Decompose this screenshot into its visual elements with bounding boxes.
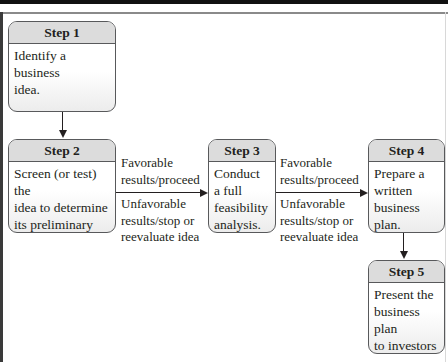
step-3-line: Conduct [214,165,270,182]
unfavorable-line: results/stop or [280,213,358,230]
arrow-down-icon [59,130,67,138]
frame-left-border [0,12,3,362]
step-2-title: Step 2 [9,140,115,162]
top-black-bar [0,0,448,4]
transition-1-unfavorable: Unfavorable results/stop or reevaluate i… [121,196,199,246]
step-2-line: idea to determine [14,199,110,216]
step-2-line: its preliminary [14,216,110,233]
step-3-line: analysis. [214,216,270,233]
step-1-title: Step 1 [9,22,115,44]
connector-step2-step3 [116,192,200,193]
arrow-down-icon [400,251,408,259]
transition-2-unfavorable: Unfavorable results/stop or reevaluate i… [280,196,358,246]
arrow-right-icon [360,189,368,197]
step-4-line: plan. [374,216,439,233]
favorable-line: results/proceed [280,172,359,189]
step-4-box: Step 4 Prepare a written business plan. [368,139,445,233]
step-1-line: idea. [14,81,110,98]
step-1-line: Identify a business [14,47,110,81]
step-3-description: Conduct a full feasibility analysis. [209,162,275,233]
unfavorable-line: Unfavorable [280,196,358,213]
unfavorable-line: reevaluate idea [121,229,199,246]
step-4-title: Step 4 [369,140,444,162]
step-3-line: a full [214,182,270,199]
arrow-right-icon [200,189,208,197]
connector-step1-step2 [62,112,63,131]
step-5-box: Step 5 Present the business plan to inve… [368,260,445,354]
step-1-description: Identify a business idea. [9,44,115,98]
favorable-line: Favorable [280,155,359,172]
unfavorable-line: results/stop or [121,213,199,230]
favorable-line: Favorable [121,155,200,172]
step-4-line: business [374,199,439,216]
step-4-description: Prepare a written business plan. [369,162,444,233]
frame-top-border [0,12,448,14]
frame-right-border [445,12,446,362]
step-5-line: to investors [374,337,439,354]
step-5-line: Present the [374,286,439,303]
unfavorable-line: Unfavorable [121,196,199,213]
transition-2-favorable: Favorable results/proceed [280,155,359,188]
step-3-box: Step 3 Conduct a full feasibility analys… [208,139,276,233]
step-5-description: Present the business plan to investors a… [369,283,444,354]
connector-step4-step5 [403,233,404,252]
connector-step3-step4 [276,192,360,193]
transition-1-favorable: Favorable results/proceed [121,155,200,188]
step-2-line: Screen (or test) the [14,165,110,199]
step-5-title: Step 5 [369,261,444,283]
unfavorable-line: reevaluate idea [280,229,358,246]
step-2-box: Step 2 Screen (or test) the idea to dete… [8,139,116,233]
step-1-box: Step 1 Identify a business idea. [8,21,116,112]
step-3-title: Step 3 [209,140,275,162]
step-5-line: business plan [374,303,439,337]
step-3-line: feasibility [214,199,270,216]
step-2-description: Screen (or test) the idea to determine i… [9,162,115,233]
favorable-line: results/proceed [121,172,200,189]
step-4-line: Prepare a [374,165,439,182]
step-4-line: written [374,182,439,199]
